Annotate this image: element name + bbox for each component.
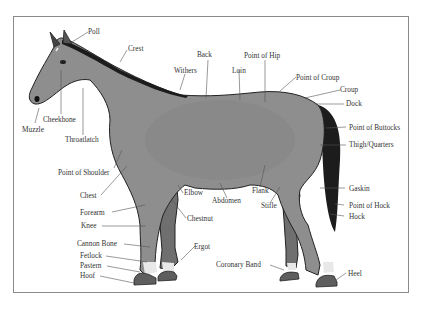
label-gaskin: Gaskin	[349, 185, 370, 192]
label-throatlatch: Throatlatch	[65, 136, 99, 143]
label-knee: Knee	[81, 222, 96, 229]
nostril	[35, 96, 40, 102]
label-cannon-bone: Cannon Bone	[77, 240, 117, 247]
label-pastern: Pastern	[80, 262, 101, 269]
ear-right	[63, 30, 72, 44]
label-point-of-hock: Point of Hock	[349, 202, 390, 209]
label-flank: Flank	[252, 187, 269, 194]
label-coronary-band: Coronary Band	[216, 261, 261, 268]
label-point-of-buttocks: Point of Buttocks	[349, 124, 400, 131]
label-withers: Withers	[174, 67, 197, 74]
label-ergot: Ergot	[194, 243, 210, 250]
label-back: Back	[197, 51, 212, 58]
label-point-of-hip: Point of Hip	[244, 52, 280, 59]
sock-front-far	[162, 262, 174, 271]
label-point-of-shoulder: Point of Shoulder	[58, 169, 109, 176]
label-elbow: Elbow	[184, 189, 203, 196]
label-muzzle: Muzzle	[22, 126, 44, 133]
label-stifle: Stifle	[261, 202, 277, 209]
label-point-of-croup: Point of Croup	[296, 74, 339, 81]
hoof-hind-near	[316, 275, 337, 287]
label-crest: Crest	[128, 45, 143, 52]
hoof-front-far	[158, 271, 177, 281]
label-hoof: Hoof	[80, 272, 95, 279]
label-chest: Chest	[80, 192, 97, 199]
horse-illustration	[0, 0, 423, 309]
label-loin: Loin	[232, 67, 246, 74]
label-chestnut: Chestnut	[187, 215, 213, 222]
hoof-hind-far	[280, 272, 299, 281]
hoof-front-near	[134, 273, 156, 285]
sock-hind-near	[323, 262, 334, 273]
eye	[60, 60, 66, 64]
label-heel: Heel	[348, 270, 362, 277]
sock-hind-far	[287, 263, 296, 270]
label-poll: Poll	[88, 28, 100, 35]
label-dock: Dock	[346, 100, 362, 107]
label-hock: Hock	[349, 213, 365, 220]
label-cheekbone: Cheekbone	[43, 116, 76, 123]
label-croup: Croup	[340, 86, 358, 93]
label-forearm: Forearm	[80, 209, 105, 216]
label-fetlock: Fetlock	[80, 252, 102, 259]
label-thigh-quarters: Thigh/Quarters	[349, 141, 394, 148]
label-abdomen: Abdomen	[212, 197, 241, 204]
